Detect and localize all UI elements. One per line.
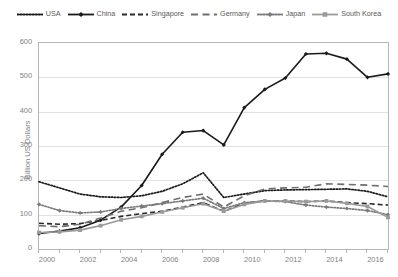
legend-swatch-icon [68,10,94,19]
y-axis-tick-label: 100 [20,210,32,217]
legend-swatch-icon [191,10,217,19]
y-axis-tick-label: 300 [20,141,32,148]
legend-swatch-icon [312,10,338,19]
data-point [119,218,123,222]
x-axis-tick-mark [100,250,101,253]
x-axis-tick-label: 2004 [121,256,137,263]
data-point [345,201,349,205]
x-axis-tick-mark [305,250,306,253]
y-axis-tick-label: 400 [20,107,32,114]
data-point [37,202,41,206]
legend-item-label: Singapore [151,10,184,17]
data-point [78,211,82,215]
x-axis-tick-mark [202,250,203,253]
y-axis-tick-label: 500 [20,73,32,80]
data-point [201,202,205,206]
data-point [140,214,144,218]
series-germany [39,184,388,227]
x-axis-tick-label: 2016 [367,256,383,263]
data-point [386,72,390,76]
legend-item-label: Japan [286,10,306,17]
chart-legend: USAChinaSingaporeGermanyJapanSouth Korea [0,6,398,22]
data-point [324,51,328,55]
y-axis-tick-label: 600 [20,38,32,45]
data-point [98,210,102,214]
x-axis: 200020022004200620082010201220142016 [38,250,389,274]
x-axis-tick-mark [264,250,265,253]
legend-item-south-korea[interactable]: South Korea [312,10,381,19]
x-axis-tick-mark [182,250,183,253]
data-point [345,206,349,210]
y-axis: Billion US Dollars 0100200300400500600 [0,42,36,250]
legend-swatch-icon [17,10,43,19]
x-axis-tick-label: 2010 [244,256,260,263]
data-point [58,230,62,234]
legend-item-label: Germany [220,10,250,17]
data-point [324,205,328,209]
data-point [181,199,185,203]
x-axis-tick-label: 2002 [80,256,96,263]
legend-item-china[interactable]: China [68,10,116,19]
legend-swatch-icon [257,10,283,19]
y-axis-tick-label: 200 [20,176,32,183]
data-point [386,216,390,220]
data-point [57,208,61,212]
x-axis-tick-mark [223,250,224,253]
legend-item-label: China [97,10,116,17]
line-chart: USAChinaSingaporeGermanyJapanSouth Korea… [0,0,398,277]
data-point [99,224,103,228]
legend-swatch-icon [122,10,148,19]
x-axis-tick-mark [387,250,388,253]
x-axis-tick-label: 2006 [162,256,178,263]
legend-item-label: South Korea [341,10,381,17]
x-axis-tick-mark [38,250,39,253]
data-point [160,210,164,214]
data-point [283,199,287,203]
legend-item-japan[interactable]: Japan [257,10,306,19]
legend-item-label: USA [46,10,61,17]
x-axis-tick-label: 2014 [326,256,342,263]
x-axis-tick-mark [243,250,244,253]
data-point [222,209,226,213]
x-axis-tick-mark [141,250,142,253]
data-point [263,199,267,203]
data-point [37,231,41,235]
x-axis-tick-mark [346,250,347,253]
x-axis-tick-mark [284,250,285,253]
legend-item-usa[interactable]: USA [17,10,61,19]
data-point [78,228,82,232]
data-point [304,203,308,207]
x-axis-tick-label: 2012 [285,256,301,263]
x-axis-tick-mark [120,250,121,253]
plot-area [38,42,389,250]
x-axis-tick-mark [59,250,60,253]
data-point [181,206,185,210]
data-point [242,202,246,206]
data-point [325,199,329,203]
series-south-korea [37,199,390,234]
data-point [365,208,369,212]
x-axis-tick-mark [161,250,162,253]
y-axis-tick-label: 0 [28,244,32,251]
x-axis-tick-mark [366,250,367,253]
data-point [304,200,308,204]
legend-item-singapore[interactable]: Singapore [122,10,184,19]
x-axis-tick-label: 2008 [203,256,219,263]
series-usa [39,173,388,198]
x-axis-tick-label: 2000 [39,256,55,263]
data-point [366,205,370,209]
legend-item-germany[interactable]: Germany [191,10,250,19]
x-axis-tick-mark [79,250,80,253]
series-layer [39,43,388,249]
x-axis-tick-mark [325,250,326,253]
